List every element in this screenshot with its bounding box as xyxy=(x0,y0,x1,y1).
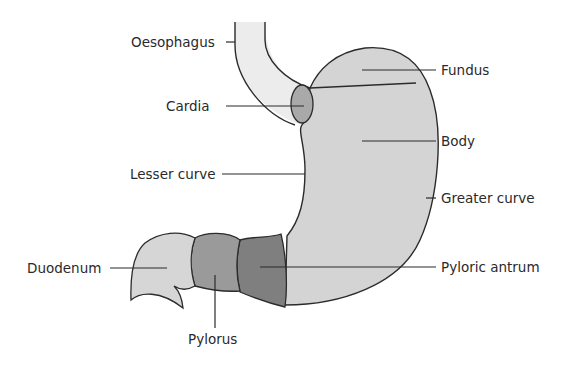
label-pyloric-antrum: Pyloric antrum xyxy=(441,259,540,275)
label-greater-curve: Greater curve xyxy=(441,190,535,206)
pylorus-shape xyxy=(191,233,240,291)
stomach-diagram xyxy=(0,0,565,369)
label-cardia: Cardia xyxy=(166,98,210,114)
label-lesser-curve: Lesser curve xyxy=(130,166,216,182)
cardia-shape xyxy=(291,85,313,123)
stomach-body-shape xyxy=(285,48,438,305)
label-duodenum: Duodenum xyxy=(27,260,101,276)
label-pylorus: Pylorus xyxy=(188,331,237,347)
label-oesophagus: Oesophagus xyxy=(131,34,215,50)
label-body: Body xyxy=(441,133,475,149)
pyloric-antrum-shape xyxy=(237,234,286,307)
duodenum-shape xyxy=(131,233,195,308)
label-fundus: Fundus xyxy=(441,62,489,78)
